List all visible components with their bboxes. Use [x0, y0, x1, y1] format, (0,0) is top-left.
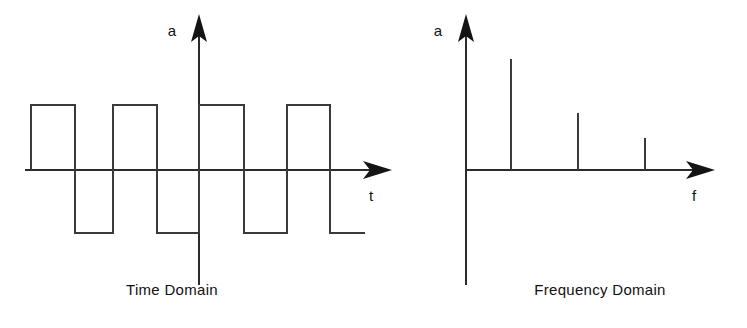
frequency-domain-x-axis-label: f [692, 187, 697, 204]
time-domain-panel: a t Time Domain [25, 14, 392, 298]
time-domain-caption: Time Domain [126, 281, 218, 298]
square-wave-fourier-diagram: a t Time Domain a f Frequency Domain [0, 0, 747, 328]
time-domain-x-axis-label: t [369, 187, 374, 204]
frequency-domain-y-axis-label: a [434, 22, 443, 39]
frequency-domain-panel: a f Frequency Domain [434, 14, 715, 298]
frequency-domain-caption: Frequency Domain [534, 281, 666, 298]
time-domain-y-axis-label: a [168, 22, 177, 39]
figure-container: a t Time Domain a f Frequency Domain [0, 0, 747, 328]
